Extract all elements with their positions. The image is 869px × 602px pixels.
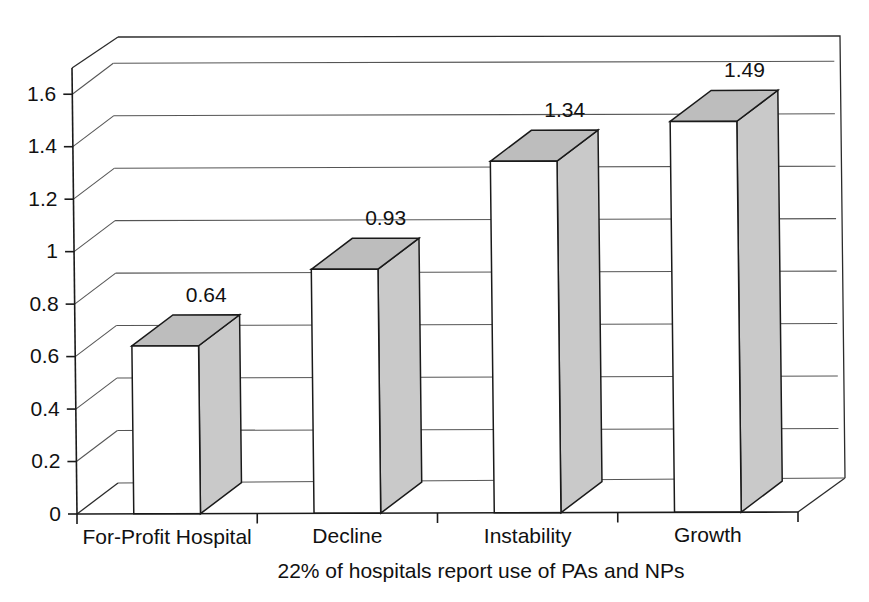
y-tick-label-0.4: 0.4 <box>31 397 61 420</box>
y-tick-label-1.2: 1.2 <box>28 187 57 210</box>
bar-for-profit-hospital <box>132 315 242 514</box>
bar-instability <box>490 130 602 513</box>
bar-value-label-0: 0.64 <box>186 283 227 306</box>
x-axis-label-instability: Instability <box>484 524 572 547</box>
chart-container: 00.20.40.60.811.21.41.6 For-Profit Hospi… <box>0 0 869 602</box>
bar-front-face-2 <box>490 161 561 513</box>
x-axis-label-for-profit-hospital: For-Profit Hospital <box>83 525 252 548</box>
depth-line-1 <box>74 221 115 252</box>
y-tick-label-1.4: 1.4 <box>28 134 58 157</box>
x-axis-title: 22% of hospitals report use of PAs and N… <box>278 559 685 582</box>
y-tick-label-1.6: 1.6 <box>27 82 56 105</box>
top-left-depth-edge <box>72 37 118 68</box>
depth-line-0.6 <box>75 326 116 357</box>
y-tick-label-0.8: 0.8 <box>29 292 58 315</box>
x-axis-label-growth: Growth <box>674 523 742 546</box>
y-axis-ticks: 00.20.40.60.811.21.41.6 <box>27 82 77 525</box>
y-tick-label-0.6: 0.6 <box>30 344 59 367</box>
depth-line-1.6 <box>72 63 113 94</box>
depth-line-1.4 <box>73 116 114 147</box>
depth-line-0.2 <box>76 431 117 462</box>
x-axis-ticks: For-Profit HospitalDeclineInstabilityGro… <box>77 512 798 548</box>
y-tick-label-1: 1 <box>46 239 58 262</box>
bar-front-face-1 <box>311 269 380 513</box>
y-tick-label-0: 0 <box>49 502 61 525</box>
y-axis-line <box>72 68 77 514</box>
depth-connector-lines <box>72 63 117 461</box>
bar-side-face-1 <box>378 238 422 513</box>
depth-line-1.2 <box>73 168 114 199</box>
y-tick-label-0.2: 0.2 <box>31 449 60 472</box>
bar-front-face-0 <box>132 346 201 514</box>
x-axis-label-decline: Decline <box>312 524 382 547</box>
bar-growth <box>670 90 782 512</box>
bar-front-face-3 <box>670 121 741 512</box>
bar-side-face-2 <box>557 130 602 513</box>
bar-decline <box>311 238 421 513</box>
bar-value-label-3: 1.49 <box>724 58 765 81</box>
bar-side-face-0 <box>199 315 242 514</box>
depth-line-0.4 <box>76 378 117 409</box>
bar-side-face-3 <box>737 90 782 512</box>
bar-value-label-2: 1.34 <box>544 98 585 121</box>
bar-value-label-1: 0.93 <box>365 206 406 229</box>
bar-chart-3d: 00.20.40.60.811.21.41.6 For-Profit Hospi… <box>0 0 869 602</box>
depth-line-0.8 <box>75 273 116 304</box>
